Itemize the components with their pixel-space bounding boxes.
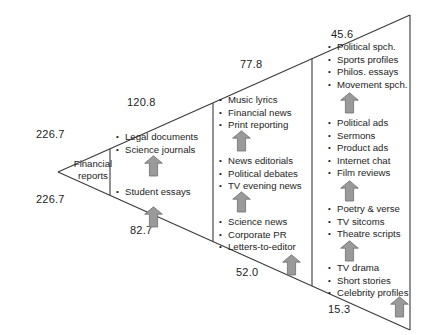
apex-label-line-1: Financial bbox=[62, 158, 124, 170]
value-bottom-right: 15.3 bbox=[328, 303, 350, 315]
band-3-group-1: Political spch. Sports profiles Philos. … bbox=[328, 41, 407, 91]
band-1-group-1: Legal documents Science journals bbox=[116, 131, 198, 156]
list-item: Product ads bbox=[328, 142, 390, 155]
band-3-group-2: Political ads Sermons Product ads Intern… bbox=[328, 117, 390, 180]
list-item: TV drama bbox=[328, 262, 408, 275]
value-bottom-left: 226.7 bbox=[36, 193, 65, 205]
list-item: Science news bbox=[219, 216, 296, 229]
value-top-left: 226.7 bbox=[36, 128, 65, 140]
band-3-group-3: Poetry & verse TV sitcoms Theatre script… bbox=[328, 203, 400, 241]
value-top-right: 45.6 bbox=[331, 28, 353, 40]
list-item: TV sitcoms bbox=[328, 216, 400, 229]
up-arrow-icon bbox=[340, 240, 359, 262]
list-item: Philos. essays bbox=[328, 66, 407, 79]
up-arrow-icon bbox=[144, 206, 163, 228]
up-arrow-icon bbox=[390, 296, 409, 318]
up-arrow-icon bbox=[340, 92, 359, 114]
apex-label-line-2: reports bbox=[62, 170, 124, 182]
band-2-group-2: News editorials Political debates TV eve… bbox=[219, 155, 302, 193]
value-top-second: 120.8 bbox=[127, 96, 156, 108]
list-item: Film reviews bbox=[328, 167, 390, 180]
list-item: Print reporting bbox=[219, 119, 291, 132]
band-2-group-1: Music lyrics Financial news Print report… bbox=[219, 94, 291, 132]
list-item: News editorials bbox=[219, 155, 302, 168]
diagram-canvas: 226.7 226.7 120.8 82.7 77.8 52.0 45.6 15… bbox=[0, 0, 430, 335]
up-arrow-icon bbox=[232, 191, 251, 213]
list-item: Theatre scripts bbox=[328, 228, 400, 241]
apex-label: Financial reports bbox=[62, 158, 124, 183]
list-item: Short stories bbox=[328, 275, 408, 288]
value-bottom-third: 52.0 bbox=[236, 266, 258, 278]
list-item: Sports profiles bbox=[328, 54, 407, 67]
up-arrow-icon bbox=[232, 130, 251, 152]
band-2-group-3: Science news Corporate PR Letters-to-edi… bbox=[219, 216, 296, 254]
list-item: Political ads bbox=[328, 117, 390, 130]
band-3-group-4: TV drama Short stories Celebrity profile… bbox=[328, 262, 408, 300]
up-arrow-icon bbox=[282, 254, 301, 276]
list-item: Political spch. bbox=[328, 41, 407, 54]
list-item: Sermons bbox=[328, 130, 390, 143]
up-arrow-icon bbox=[144, 155, 163, 177]
list-item: Movement spch. bbox=[328, 79, 407, 92]
list-item: Corporate PR bbox=[219, 229, 296, 242]
list-item: Internet chat bbox=[328, 155, 390, 168]
value-top-third: 77.8 bbox=[240, 58, 262, 70]
list-item: Poetry & verse bbox=[328, 203, 400, 216]
list-item: Legal documents bbox=[116, 131, 198, 144]
list-item: Financial news bbox=[219, 107, 291, 120]
list-item: Music lyrics bbox=[219, 94, 291, 107]
list-item: Political debates bbox=[219, 168, 302, 181]
list-item: Student essays bbox=[116, 186, 191, 199]
band-1-group-2: Student essays bbox=[116, 186, 191, 199]
up-arrow-icon bbox=[340, 180, 359, 202]
list-item: Letters-to-editor bbox=[219, 241, 296, 254]
